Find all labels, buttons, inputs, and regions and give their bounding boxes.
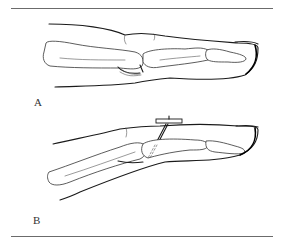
panel-a-drawing (43, 24, 258, 87)
panel-label-a: A (34, 96, 42, 108)
finger-illustration-figure: A B (0, 0, 284, 243)
bottom-rule (11, 236, 273, 237)
finger-drawings (0, 0, 284, 243)
panel-b-drawing (48, 116, 259, 200)
panel-label-b: B (33, 214, 40, 226)
